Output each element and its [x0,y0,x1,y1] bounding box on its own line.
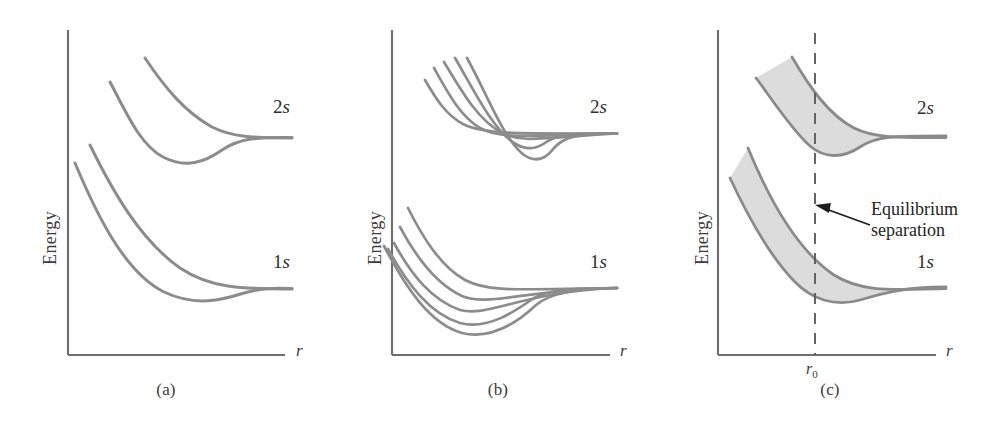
equilibrium-tick-label: r0 [806,360,818,380]
panel-c: Energy r r0 2s 1s Equilibrium separation… [664,0,996,429]
x-axis-label-a: r [296,341,303,361]
y-axis-label-a: Energy [40,211,61,265]
curve-2s-bonding [110,82,292,163]
level-label-2s-c: 2s [917,97,934,119]
curve-group-2s-a [110,58,292,163]
panel-caption-b: (b) [332,380,664,400]
axes-a [68,30,285,355]
equilibrium-annotation-arrow [815,203,870,225]
x-axis-label-c: r [946,341,953,361]
curve-1s-bonding [75,163,292,301]
panel-caption-a: (a) [0,380,332,400]
panel-b: Energy r 2s 1s (b) [332,0,664,429]
panel-a: Energy r 2s 1s (a) [0,0,332,429]
curve-1s-3 [394,243,617,311]
equilibrium-separation-annotation: Equilibrium separation [871,199,958,241]
level-label-2s-b: 2s [590,96,607,118]
level-label-1s-b: 1s [590,251,607,273]
y-axis-label-b: Energy [365,211,386,265]
arrow-head [815,203,831,213]
curve-group-2s-b [425,58,617,159]
y-axis-label-c: Energy [692,211,713,265]
curve-group-1s-b [384,208,617,335]
equilibrium-annotation-line1: Equilibrium [871,199,958,220]
panel-caption-c: (c) [664,380,996,400]
curve-1s-antibonding [90,145,292,289]
curve-2s-antibonding [145,58,292,138]
equilibrium-annotation-line2: separation [871,220,958,241]
level-label-1s-a: 1s [273,251,290,273]
curve-2s-1 [425,80,617,134]
level-label-2s-a: 2s [273,96,290,118]
curve-group-1s-a [75,145,292,301]
arrow-shaft [826,209,870,225]
level-label-1s-c: 1s [917,251,934,273]
energy-band-figure: Energy r 2s 1s (a) [0,0,996,429]
x-axis-label-b: r [620,341,627,361]
curve-1s-1 [408,208,617,289]
